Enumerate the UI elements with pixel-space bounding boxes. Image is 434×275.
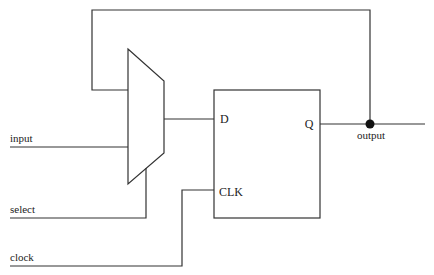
output-label: output (357, 129, 385, 141)
circuit-diagram: D Q CLK output input select clock (0, 0, 434, 275)
pin-d-label: D (220, 112, 229, 126)
select-label: select (10, 203, 35, 215)
multiplexer (128, 49, 164, 184)
pin-q-label: Q (305, 117, 314, 131)
feedback-wire (92, 10, 370, 124)
input-label: input (10, 132, 33, 144)
output-junction-dot (366, 120, 375, 129)
clock-wire (10, 190, 214, 266)
pin-clk-label: CLK (219, 185, 243, 199)
clock-label: clock (10, 251, 34, 263)
